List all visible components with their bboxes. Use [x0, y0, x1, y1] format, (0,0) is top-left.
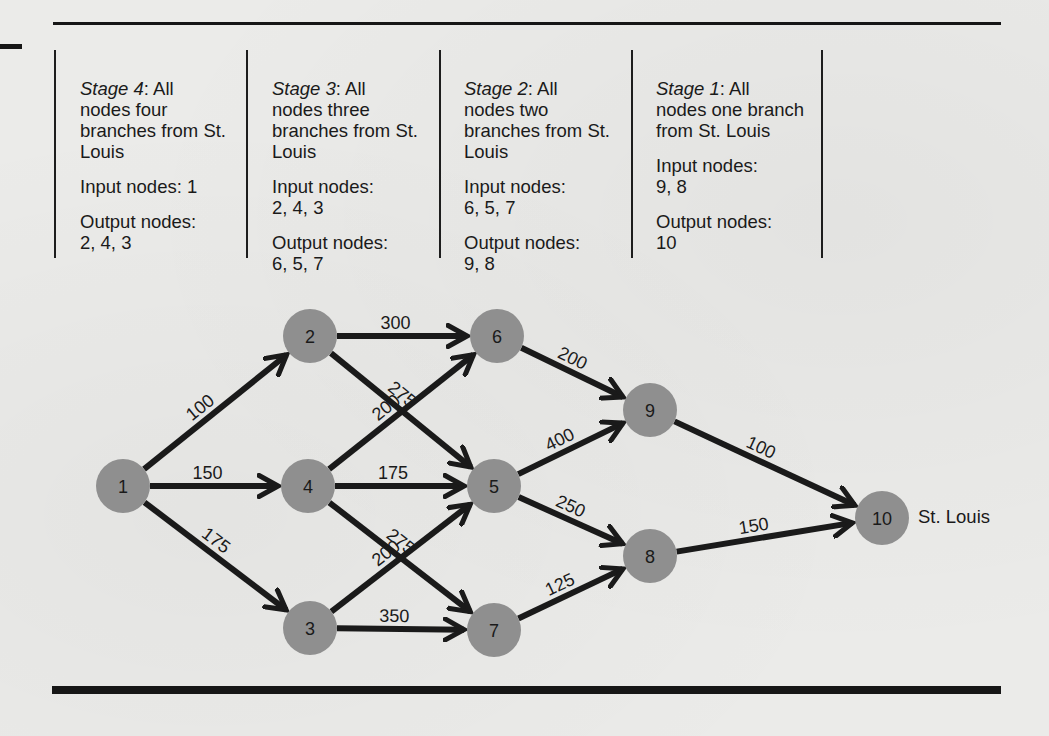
destination-label: St. Louis	[918, 506, 990, 528]
edge-1-to-2: 100	[144, 355, 287, 469]
edge-5-to-9: 400	[518, 423, 623, 474]
node-label: 3	[305, 619, 315, 639]
node-label: 10	[872, 509, 892, 529]
edge-distance-label: 150	[193, 463, 223, 483]
edge-3-to-7: 350	[337, 606, 464, 630]
edge-2-to-6: 300	[337, 313, 467, 336]
edge-distance-label: 300	[380, 313, 410, 333]
node-label: 2	[305, 327, 315, 347]
node-1: 1	[96, 459, 150, 513]
arrow-icon	[145, 502, 287, 610]
node-3: 3	[283, 601, 337, 655]
node-2: 2	[283, 309, 337, 363]
node-10: 10	[855, 491, 909, 545]
node-label: 5	[489, 477, 499, 497]
node-7: 7	[467, 603, 521, 657]
node-label: 6	[492, 327, 502, 347]
node-label: 8	[645, 547, 655, 567]
edge-1-to-3: 175	[145, 502, 287, 610]
arrow-icon	[337, 628, 464, 629]
node-label: 9	[645, 401, 655, 421]
node-5: 5	[467, 459, 521, 513]
edge-8-to-10: 150	[677, 514, 853, 552]
edge-distance-label: 350	[379, 606, 409, 626]
edge-6-to-9: 200	[521, 343, 623, 397]
edge-4-to-5: 175	[335, 463, 464, 486]
node-6: 6	[470, 309, 524, 363]
arrow-icon	[144, 355, 287, 469]
node-label: 4	[303, 477, 313, 497]
edge-9-to-10: 100	[674, 421, 854, 505]
node-9: 9	[623, 383, 677, 437]
network-diagram: 1001501753002752001752752003502004002501…	[0, 0, 1049, 736]
edge-7-to-8: 125	[518, 569, 623, 619]
node-label: 1	[118, 477, 128, 497]
edge-distance-label: 175	[198, 523, 234, 557]
arrow-icon	[674, 421, 854, 505]
node-8: 8	[623, 529, 677, 583]
edge-distance-label: 175	[378, 463, 408, 483]
edge-5-to-8: 250	[519, 491, 623, 544]
edge-distance-label: 100	[182, 390, 218, 424]
node-4: 4	[281, 459, 335, 513]
node-label: 7	[489, 621, 499, 641]
edge-1-to-4: 150	[150, 463, 278, 486]
